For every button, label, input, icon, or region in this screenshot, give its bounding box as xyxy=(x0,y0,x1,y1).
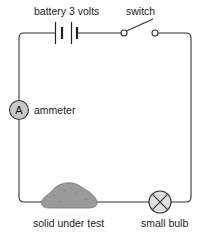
solid-sample-icon xyxy=(42,183,98,208)
battery-icon xyxy=(56,22,78,44)
bulb-label: small bulb xyxy=(141,217,188,229)
ammeter-label: ammeter xyxy=(34,104,75,116)
wire-top-right xyxy=(158,33,191,202)
wire-bottom-left xyxy=(19,120,42,202)
ammeter-icon: A xyxy=(10,101,29,120)
circuit-diagram: A xyxy=(0,0,199,235)
wire-top-left xyxy=(19,33,55,100)
battery-label: battery 3 volts xyxy=(34,5,99,17)
switch-label: switch xyxy=(126,5,155,17)
wires xyxy=(19,33,191,202)
switch-icon xyxy=(121,19,158,36)
ammeter-symbol: A xyxy=(15,104,23,116)
solid-label: solid under test xyxy=(33,217,104,229)
bulb-icon xyxy=(149,191,171,213)
